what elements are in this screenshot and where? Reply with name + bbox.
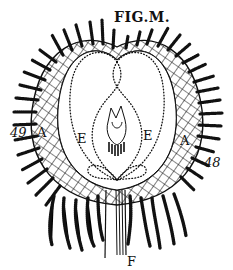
label-right-chamber: E — [143, 128, 153, 143]
label-stem: F — [127, 254, 136, 269]
label-left-chamber: E — [77, 131, 87, 146]
figure-title: FIG.M. — [114, 9, 170, 25]
label-right-number: 48 — [203, 155, 221, 170]
label-right-region: A — [179, 133, 190, 148]
label-left-region: A — [36, 125, 47, 140]
engraved-figure: FIG.M. 49 48 A A E E F — [0, 0, 233, 270]
label-left-number: 49 — [9, 125, 27, 140]
